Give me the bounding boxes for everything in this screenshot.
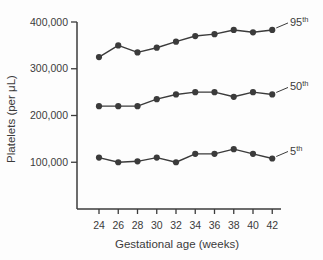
series-95th-point <box>231 27 237 33</box>
y-tick-label: 100,000 <box>30 156 68 168</box>
series-5th-point <box>115 159 121 165</box>
series-50th-point <box>250 89 256 95</box>
series-5th-point <box>211 151 217 157</box>
series-50th-leader-line <box>276 87 288 92</box>
x-tick-label: 34 <box>189 219 201 231</box>
series-95th-label-base: 95 <box>290 16 302 28</box>
series-5th-label-superscript: th <box>296 144 302 153</box>
y-tick-label: 200,000 <box>30 109 68 121</box>
series-95th-label-superscript: th <box>302 15 308 24</box>
series-5th-point <box>231 146 237 152</box>
series-50th-point <box>115 103 121 109</box>
x-tick-label: 28 <box>132 219 144 231</box>
series-95th-point <box>211 31 217 37</box>
series-95th-leader-line <box>276 23 288 28</box>
series-95th-label: 95th <box>290 15 309 28</box>
x-tick-label: 40 <box>247 219 259 231</box>
series-5th-point <box>173 159 179 165</box>
series-50th-point <box>231 94 237 100</box>
series-50th-point <box>154 96 160 102</box>
x-tick-label: 30 <box>151 219 163 231</box>
series-5th-point <box>192 151 198 157</box>
series-50th-point <box>269 91 275 97</box>
series-5th-line <box>99 149 272 162</box>
x-tick-label: 42 <box>266 219 278 231</box>
chart-generated-content: 100,000200,000300,000400,000242628303234… <box>30 15 308 231</box>
series-50th-point <box>173 91 179 97</box>
series-95th-point <box>154 45 160 51</box>
series-5th-label: 5th <box>290 144 302 157</box>
series-50th-point <box>192 89 198 95</box>
series-5th-point <box>154 154 160 160</box>
x-tick-label: 24 <box>93 219 105 231</box>
series-50th-point <box>96 103 102 109</box>
series-95th-point <box>115 42 121 48</box>
x-tick-label: 36 <box>209 219 221 231</box>
series-5th-point <box>269 155 275 161</box>
chart-svg: 100,000200,000300,000400,000242628303234… <box>0 0 323 260</box>
series-95th-point <box>173 39 179 45</box>
series-95th-point <box>250 29 256 35</box>
series-5th-leader-line <box>276 152 288 157</box>
series-50th-label-superscript: th <box>302 79 308 88</box>
series-5th-point <box>134 158 140 164</box>
series-95th-line <box>99 30 272 57</box>
series-95th-point <box>96 54 102 60</box>
series-95th-point <box>269 27 275 33</box>
series-50th-point <box>211 89 217 95</box>
y-tick-label: 400,000 <box>30 16 68 28</box>
x-tick-label: 26 <box>112 219 124 231</box>
series-95th-point <box>134 49 140 55</box>
platelet-percentile-figure: 100,000200,000300,000400,000242628303234… <box>0 0 323 260</box>
x-axis-title: Gestational age (weeks) <box>115 238 239 250</box>
series-50th-label-base: 50 <box>290 80 302 92</box>
series-5th-point <box>96 154 102 160</box>
series-95th-point <box>192 33 198 39</box>
series-50th-line <box>99 92 272 106</box>
x-tick-label: 38 <box>228 219 240 231</box>
series-50th-point <box>134 103 140 109</box>
y-axis-title: Platelets (per μL) <box>5 75 17 163</box>
series-5th-point <box>250 151 256 157</box>
x-tick-label: 32 <box>170 219 182 231</box>
series-50th-label: 50th <box>290 79 309 92</box>
y-tick-label: 300,000 <box>30 62 68 74</box>
